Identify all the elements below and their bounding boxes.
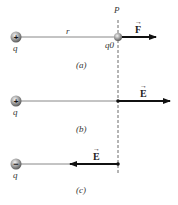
test-charge-label: q0 — [105, 41, 114, 50]
svg-text:−: − — [13, 159, 18, 169]
svg-text:+: + — [14, 33, 19, 42]
charge-label: q — [13, 171, 18, 180]
field-vector-label: E — [93, 152, 100, 162]
charge-label: q — [13, 108, 18, 117]
field-vector-label: E — [140, 89, 147, 99]
point-p-label: P — [114, 6, 120, 15]
charge-label: q — [13, 44, 18, 53]
panel-b-caption: (b) — [76, 125, 87, 134]
force-vector-label: F — [135, 25, 141, 35]
svg-text:+: + — [14, 97, 19, 106]
field-diagram: + + − — [0, 0, 178, 205]
distance-label: r — [66, 27, 70, 36]
panel-c-caption: (c) — [76, 186, 86, 195]
test-charge-icon — [114, 33, 122, 41]
panel-a-caption: (a) — [76, 61, 87, 70]
